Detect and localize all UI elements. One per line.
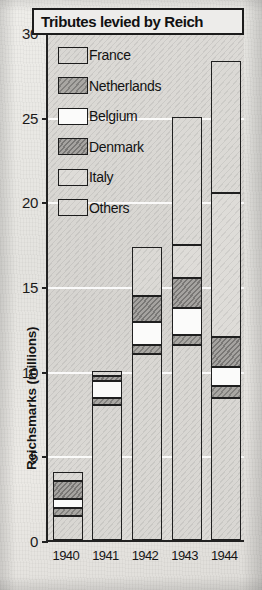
bar-segment-1943-denmark — [172, 278, 202, 308]
legend-item-belgium: Belgium — [58, 105, 161, 127]
bar-1943 — [172, 32, 202, 540]
chart-legend: FranceNetherlandsBelgiumDenmarkItalyOthe… — [58, 44, 161, 227]
bar-segment-1940-france — [53, 516, 83, 540]
bar-segment-1944-italy — [211, 193, 241, 337]
france-swatch — [58, 47, 88, 64]
x-tick-label-1942: 1942 — [125, 548, 165, 563]
bar-segment-1941-france — [92, 405, 122, 540]
bar-segment-1943-italy — [172, 245, 202, 277]
bar-segment-1940-netherlands — [53, 508, 83, 516]
bar-segment-1943-france — [172, 345, 202, 540]
legend-label-france: France — [89, 47, 131, 63]
bar-segment-1944-others — [211, 61, 241, 193]
x-tick-label-1944: 1944 — [204, 548, 244, 563]
legend-item-netherlands: Netherlands — [58, 75, 161, 97]
y-tick-0 — [42, 541, 48, 543]
legend-label-italy: Italy — [89, 169, 113, 185]
x-tick-label-1941: 1941 — [86, 548, 126, 563]
x-tick-label-1943: 1943 — [165, 548, 205, 563]
bar-1944 — [211, 32, 241, 540]
legend-item-denmark: Denmark — [58, 136, 161, 158]
x-tick-label-1940: 1940 — [46, 548, 86, 563]
bar-segment-1942-others — [132, 247, 162, 296]
bar-segment-1943-others — [172, 117, 202, 246]
legend-item-others: Others — [58, 197, 161, 219]
bar-segment-1940-belgium — [53, 499, 83, 507]
bar-segment-1942-france — [132, 354, 162, 540]
belgium-swatch — [58, 108, 88, 125]
bar-segment-1944-belgium — [211, 367, 241, 386]
bar-segment-1942-belgium — [132, 322, 162, 346]
bar-segment-1941-others — [92, 371, 122, 376]
y-axis-title: Reichsmarks (millions) — [24, 327, 39, 470]
bar-segment-1943-netherlands — [172, 335, 202, 345]
y-tick-10 — [42, 372, 48, 374]
bar-segment-1942-netherlands — [132, 345, 162, 353]
bar-segment-1941-netherlands — [92, 398, 122, 405]
bar-segment-1942-denmark — [132, 296, 162, 321]
bar-segment-1940-denmark — [53, 481, 83, 500]
bar-segment-1941-belgium — [92, 381, 122, 398]
legend-label-belgium: Belgium — [89, 108, 137, 124]
y-tick-5 — [42, 456, 48, 458]
legend-item-france: France — [58, 44, 161, 66]
italy-swatch — [58, 169, 88, 186]
y-tick-20 — [42, 202, 48, 204]
y-tick-label-0: 0 — [0, 533, 38, 550]
others-swatch — [58, 199, 88, 216]
netherlands-swatch — [58, 77, 88, 94]
legend-item-italy: Italy — [58, 166, 161, 188]
bar-segment-1944-france — [211, 398, 241, 540]
y-tick-label-25: 25 — [0, 110, 38, 127]
y-tick-label-20: 20 — [0, 194, 38, 211]
bar-segment-1943-belgium — [172, 308, 202, 335]
bar-segment-1940-others — [53, 472, 83, 480]
y-tick-25 — [42, 118, 48, 120]
bar-segment-1944-netherlands — [211, 386, 241, 398]
bar-segment-1944-denmark — [211, 337, 241, 367]
y-tick-label-15: 15 — [0, 279, 38, 296]
chart-title: Tributes levied by Reich — [34, 13, 203, 30]
legend-label-others: Others — [89, 200, 129, 216]
chart-figure: Tributes levied by Reich 302520151050 19… — [0, 0, 262, 590]
chart-title-box: Tributes levied by Reich — [32, 8, 244, 35]
legend-label-netherlands: Netherlands — [89, 78, 161, 94]
y-tick-15 — [42, 287, 48, 289]
legend-label-denmark: Denmark — [89, 139, 144, 155]
bar-segment-1941-denmark — [92, 376, 122, 381]
denmark-swatch — [58, 138, 88, 155]
